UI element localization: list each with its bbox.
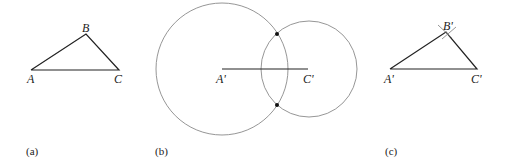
label-c-prime: C' (303, 73, 314, 85)
caption-c: (c) (385, 146, 397, 157)
intersection-point-bottom (275, 103, 279, 107)
label-c: C (114, 73, 122, 85)
figure-drawing (0, 0, 506, 163)
label-b-prime: B' (443, 20, 453, 32)
triangle-a-prime-b-prime-c-prime (390, 25, 477, 69)
label-b: B (82, 22, 89, 34)
label-c-prime: C' (471, 73, 482, 85)
compass-construction (156, 3, 357, 135)
label-a-prime: A' (216, 73, 226, 85)
triangle-abc (31, 34, 119, 70)
caption-a: (a) (26, 146, 38, 157)
triangle-construction-figure: A B C (a) A' C' (b) A' B' C' (c) (0, 0, 506, 163)
label-a: A (27, 73, 34, 85)
label-a-prime: A' (384, 73, 394, 85)
caption-b: (b) (155, 146, 168, 157)
intersection-point-top (275, 32, 279, 36)
